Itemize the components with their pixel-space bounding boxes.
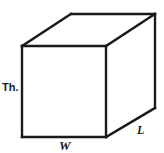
width-label: W <box>59 139 71 152</box>
front-face <box>22 46 106 137</box>
box-diagram: Th. W L <box>0 0 164 153</box>
length-label: L <box>137 124 144 136</box>
thickness-label: Th. <box>2 82 19 93</box>
